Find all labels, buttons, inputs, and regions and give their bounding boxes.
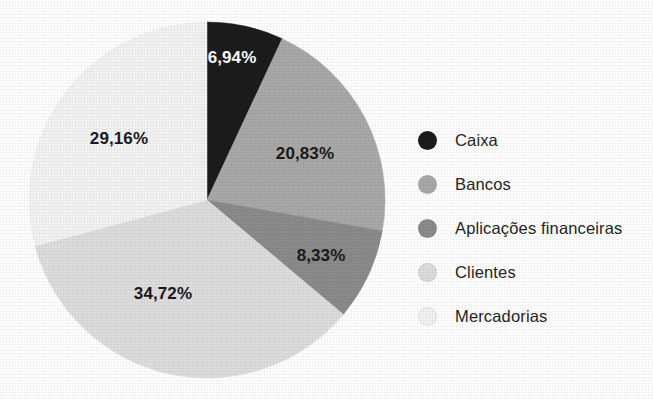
legend-label-clientes: Clientes	[455, 263, 516, 282]
legend-swatch-icon-aplicacoes-financeiras	[418, 219, 437, 238]
pie-chart-figure: 6,94% 20,83% 8,33% 34,72% 29,16% Caixa B…	[0, 0, 653, 399]
legend-item-bancos[interactable]: Bancos	[414, 162, 653, 206]
chart-legend: Caixa Bancos Aplicações financeiras Clie…	[414, 118, 653, 338]
pie-slice-group	[29, 22, 385, 378]
legend-swatch-icon-mercadorias	[418, 307, 437, 326]
pie-plot-area: 6,94% 20,83% 8,33% 34,72% 29,16%	[0, 0, 400, 399]
legend-label-caixa: Caixa	[455, 131, 498, 150]
legend-label-aplicacoes-financeiras: Aplicações financeiras	[455, 219, 622, 238]
legend-item-caixa[interactable]: Caixa	[414, 118, 653, 162]
legend-swatch-icon-bancos	[418, 175, 437, 194]
legend-swatch-icon-clientes	[418, 263, 437, 282]
legend-item-aplicacoes-financeiras[interactable]: Aplicações financeiras	[414, 206, 653, 250]
pie-svg	[0, 0, 400, 399]
legend-label-mercadorias: Mercadorias	[455, 307, 547, 326]
legend-swatch-icon-caixa	[418, 131, 437, 150]
legend-item-clientes[interactable]: Clientes	[414, 250, 653, 294]
legend-label-bancos: Bancos	[455, 175, 511, 194]
legend-item-mercadorias[interactable]: Mercadorias	[414, 294, 653, 338]
